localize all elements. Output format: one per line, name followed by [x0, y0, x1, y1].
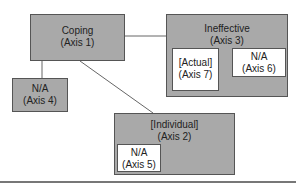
node-label: N/A: [233, 51, 285, 63]
node-na-axis4: N/A (Axis 4): [12, 78, 68, 112]
node-individual: [Individual] (Axis 2) N/A (Axis 5): [114, 113, 235, 175]
node-na-axis5: N/A (Axis 5): [117, 144, 161, 172]
node-axis: (Axis 2): [115, 131, 234, 143]
node-label: [Actual]: [173, 57, 218, 69]
node-axis: (Axis 7): [173, 69, 218, 81]
node-label: Ineffective: [167, 23, 287, 35]
node-actual: [Actual] (Axis 7): [172, 48, 219, 91]
bottom-rule: [0, 181, 296, 183]
node-na-axis6: N/A (Axis 6): [232, 48, 286, 77]
node-ineffective: Ineffective (Axis 3) [Actual] (Axis 7) N…: [166, 14, 288, 97]
node-axis: (Axis 1): [31, 37, 124, 49]
node-axis: (Axis 4): [13, 95, 67, 107]
node-label: Coping: [31, 25, 124, 37]
node-label: N/A: [118, 147, 160, 159]
node-axis: (Axis 5): [118, 159, 160, 171]
node-axis: (Axis 6): [233, 63, 285, 75]
node-coping: Coping (Axis 1): [30, 14, 125, 61]
node-axis: (Axis 3): [167, 35, 287, 47]
node-label: [Individual]: [115, 119, 234, 131]
node-label: N/A: [13, 83, 67, 95]
